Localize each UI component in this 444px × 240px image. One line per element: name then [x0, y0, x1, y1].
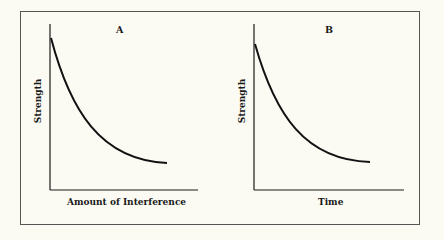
panel-b-axes	[254, 24, 404, 190]
panel-a-xlabel: Amount of Interference	[67, 197, 186, 207]
panel-a-axes	[50, 24, 198, 190]
panel-a-curve	[51, 38, 167, 163]
panel-a-ylabel: Strength	[33, 79, 43, 124]
panel-b-curve	[255, 44, 370, 162]
panel-b-xlabel: Time	[318, 197, 343, 207]
panel-b-title: B	[325, 24, 333, 35]
panel-b-ylabel: Strength	[237, 79, 247, 124]
panel-a-title: A	[116, 24, 123, 35]
